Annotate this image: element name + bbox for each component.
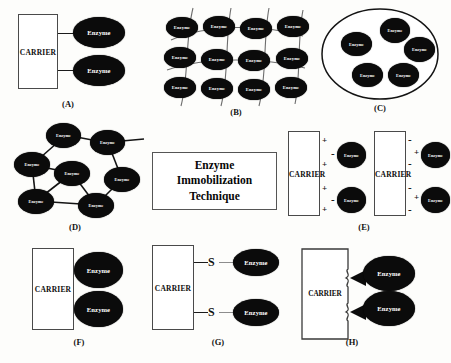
enzyme-label: Enzyme <box>87 67 110 74</box>
enzyme-label: Enzyme <box>349 42 364 47</box>
enzyme-label: Enzyme <box>246 58 262 63</box>
enzyme-label: Enzyme <box>244 259 267 266</box>
enzyme-ellipse: Enzyme <box>404 37 435 62</box>
enzyme-label: Enzyme <box>87 267 110 274</box>
enzyme-ellipse: Enzyme <box>164 77 196 98</box>
carrier-charge-sign: + <box>322 205 327 214</box>
panel-label-e: (E) <box>344 222 384 232</box>
panel-label-b: (B) <box>216 107 256 117</box>
panel-label-c: (C) <box>360 103 400 113</box>
enzyme-label: Enzyme <box>172 55 188 60</box>
enzyme-ellipse: Enzyme <box>363 256 415 291</box>
enzyme-ellipse: Enzyme <box>233 249 279 276</box>
enzyme-label: Enzyme <box>64 171 79 176</box>
enzyme-ellipse: Enzyme <box>201 49 233 70</box>
carrier-box: CARRIER <box>374 131 406 216</box>
enzyme-label: Enzyme <box>377 270 400 277</box>
enzyme-label: Enzyme <box>211 24 227 29</box>
sulfur-label: S <box>208 255 215 270</box>
enzyme-charge-sign: - <box>331 194 335 205</box>
enzyme-ellipse: Enzyme <box>74 291 123 327</box>
enzyme-label: Enzyme <box>28 199 43 204</box>
carrier-label: CARRIER <box>375 169 405 178</box>
enzyme-ellipse: Enzyme <box>276 48 308 69</box>
bond-line <box>194 312 208 313</box>
enzyme-ellipse: Enzyme <box>78 193 114 218</box>
enzyme-charge-sign: - <box>331 148 335 159</box>
carrier-charge-sign: - <box>408 204 412 215</box>
panel-label-a: (A) <box>48 99 88 109</box>
enzyme-label: Enzyme <box>114 177 129 182</box>
enzyme-label: Enzyme <box>377 305 400 312</box>
enzyme-label: Enzyme <box>283 85 299 90</box>
enzyme-ellipse: Enzyme <box>388 63 419 87</box>
enzyme-ellipse: Enzyme <box>238 50 270 71</box>
enzyme-label: Enzyme <box>396 73 411 78</box>
enzyme-label: Enzyme <box>360 73 375 78</box>
enzyme-ellipse: Enzyme <box>46 123 81 148</box>
enzyme-ellipse: Enzyme <box>18 189 54 214</box>
enzyme-ellipse: Enzyme <box>277 16 309 37</box>
panel-label-d: (D) <box>55 222 95 232</box>
enzyme-label: Enzyme <box>209 57 225 62</box>
enzyme-label: Enzyme <box>428 153 443 158</box>
enzyme-label: Enzyme <box>172 85 188 90</box>
enzyme-ellipse: Enzyme <box>104 167 140 192</box>
carrier-charge-sign: + <box>322 136 327 145</box>
carrier-charge-sign: - <box>408 134 412 145</box>
panel-label-g: (G) <box>198 337 238 347</box>
enzyme-ellipse: Enzyme <box>238 79 270 100</box>
enzyme-label: Enzyme <box>244 309 267 316</box>
enzyme-label: Enzyme <box>87 29 110 36</box>
enzyme-ellipse: Enzyme <box>421 142 450 168</box>
enzyme-ellipse: Enzyme <box>54 161 90 186</box>
enzyme-ellipse: Enzyme <box>240 18 272 39</box>
enzyme-label: Enzyme <box>209 86 225 91</box>
enzyme-label: Enzyme <box>246 87 262 92</box>
enzyme-ellipse: Enzyme <box>201 78 233 99</box>
svg-text:CARRIER: CARRIER <box>308 290 342 298</box>
enzyme-ellipse: Enzyme <box>352 63 383 87</box>
enzyme-label: Enzyme <box>428 198 443 203</box>
enzyme-charge-sign: + <box>414 148 419 157</box>
enzyme-label: Enzyme <box>56 133 71 138</box>
carrier-label: CARRIER <box>19 47 57 56</box>
covalent-bond-line <box>58 33 74 34</box>
enzyme-label: Enzyme <box>24 162 39 167</box>
enzyme-ellipse: Enzyme <box>380 18 410 43</box>
enzyme-label: Enzyme <box>285 24 301 29</box>
enzyme-label: Enzyme <box>248 26 264 31</box>
enzyme-label: Enzyme <box>344 198 359 203</box>
enzyme-charge-sign: + <box>414 193 419 202</box>
enzyme-label: Enzyme <box>87 306 110 313</box>
carrier-box: CARRIER <box>152 245 194 330</box>
bond-line <box>219 312 233 313</box>
enzyme-label: Enzyme <box>387 28 402 33</box>
center-title-line3: Technique <box>189 190 240 202</box>
carrier-box: CARRIER <box>32 248 74 330</box>
carrier-label: CARRIER <box>289 169 319 178</box>
figure-canvas: CARRIER Enzyme Enzyme (A) Enzyme Enzyme … <box>0 0 451 363</box>
enzyme-label: Enzyme <box>88 203 103 208</box>
panel-label-f: (F) <box>59 337 99 347</box>
enzyme-label: Enzyme <box>174 25 190 30</box>
enzyme-ellipse: Enzyme <box>341 32 372 56</box>
carrier-box: CARRIER <box>288 131 320 216</box>
enzyme-ellipse: Enzyme <box>337 187 366 213</box>
enzyme-ellipse: Enzyme <box>275 77 307 98</box>
bond-line <box>219 262 233 263</box>
enzyme-ellipse: Enzyme <box>164 47 196 68</box>
enzyme-ellipse: Enzyme <box>203 16 235 37</box>
enzyme-ellipse: Enzyme <box>14 152 50 177</box>
enzyme-ellipse: Enzyme <box>421 187 450 213</box>
carrier-box: CARRIER <box>18 14 58 89</box>
enzyme-label: Enzyme <box>412 47 427 52</box>
bond-line <box>194 262 208 263</box>
panel-label-h: (H) <box>332 337 372 347</box>
carrier-charge-sign: + <box>322 184 327 193</box>
enzyme-ellipse: Enzyme <box>233 299 279 326</box>
enzyme-ellipse: Enzyme <box>90 130 125 155</box>
enzyme-label: Enzyme <box>100 140 115 145</box>
carrier-charge-sign: - <box>408 158 412 169</box>
carrier-charge-sign: - <box>408 182 412 193</box>
